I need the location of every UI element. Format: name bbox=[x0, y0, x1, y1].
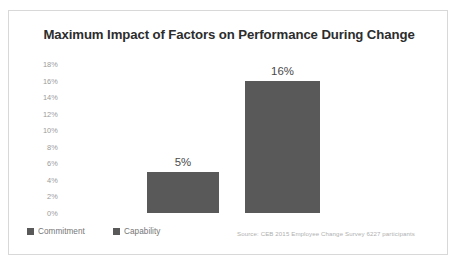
bar-group-commitment: 5% bbox=[147, 64, 219, 213]
legend-swatch-icon-commitment bbox=[27, 228, 34, 235]
legend-label-capability: Capability bbox=[124, 227, 160, 236]
legend-item-commitment[interactable]: Commitment bbox=[27, 227, 85, 236]
legend-swatch-icon-capability bbox=[113, 228, 120, 235]
y-axis-tick-16: 16% bbox=[43, 76, 58, 85]
y-axis-tick-6: 6% bbox=[47, 159, 58, 168]
chart-frame: Maximum Impact of Factors on Performance… bbox=[8, 10, 448, 255]
y-axis-tick-18: 18% bbox=[43, 60, 58, 69]
slide-canvas: Maximum Impact of Factors on Performance… bbox=[0, 0, 457, 267]
chart-title: Maximum Impact of Factors on Performance… bbox=[9, 27, 449, 42]
bar-group-capability: 16% bbox=[245, 64, 320, 213]
legend-label-commitment: Commitment bbox=[38, 227, 85, 236]
y-axis-tick-4: 4% bbox=[47, 175, 58, 184]
y-axis-tick-14: 14% bbox=[43, 93, 58, 102]
bar-value-commitment: 5% bbox=[147, 156, 219, 168]
bar-capability[interactable] bbox=[245, 81, 320, 213]
y-axis-tick-2: 2% bbox=[47, 192, 58, 201]
legend-item-capability[interactable]: Capability bbox=[113, 227, 160, 236]
y-axis-tick-8: 8% bbox=[47, 142, 58, 151]
y-axis-tick-10: 10% bbox=[43, 126, 58, 135]
bar-commitment[interactable] bbox=[147, 172, 219, 213]
plot-area: 18% 16% 14% 12% 10% 8% 6% 4% 2% 0% 5% 16… bbox=[65, 64, 420, 213]
source-note: Source: CEB 2015 Employee Change Survey … bbox=[237, 230, 415, 237]
y-axis-tick-12: 12% bbox=[43, 109, 58, 118]
bar-value-capability: 16% bbox=[245, 65, 320, 77]
y-axis-tick-0: 0% bbox=[47, 209, 58, 218]
